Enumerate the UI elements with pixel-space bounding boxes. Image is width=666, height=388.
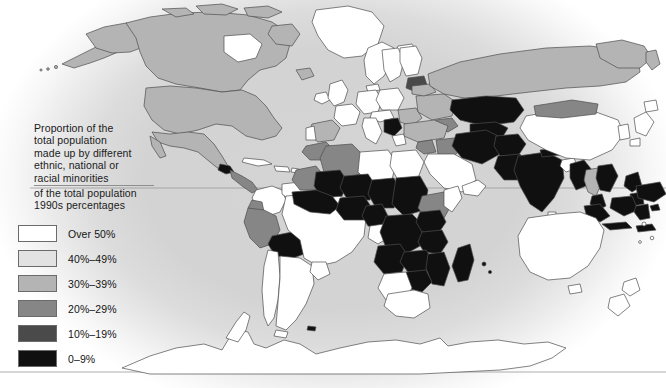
- legend-row-over-50: Over 50%: [18, 221, 148, 246]
- legend-label-0-9: 0–9%: [68, 353, 95, 365]
- swatch-0-9: [18, 350, 57, 367]
- legend-label-10-19: 10%–19%: [68, 328, 117, 340]
- legend-row-40-49: 40%–49%: [18, 246, 148, 271]
- caption-line-1: Proportion of the: [34, 122, 156, 134]
- caption-subnote-2: 1990s percentages: [34, 199, 156, 211]
- region-india: [514, 152, 564, 212]
- region-korea: [618, 124, 630, 140]
- region-japan-honshu: [634, 112, 654, 136]
- region-aleutian-isle-3: [40, 69, 42, 71]
- region-ukraine: [416, 94, 456, 120]
- region-tierra-del-fuego: [274, 330, 288, 338]
- region-madagascar: [452, 244, 474, 282]
- region-kamchatka: [646, 50, 660, 70]
- swatch-30-39: [18, 275, 57, 292]
- region-somalia: [444, 186, 462, 212]
- region-java: [602, 222, 632, 230]
- caption-block: Proportion of the total population made …: [34, 122, 156, 212]
- swatch-over-50: [18, 225, 57, 242]
- region-canada: [126, 12, 290, 92]
- region-new-zealand-north: [622, 278, 640, 296]
- caption-line-5: racial minorities: [34, 172, 156, 184]
- region-aleutian-isle-2: [47, 68, 50, 71]
- region-antarctica: [122, 330, 566, 374]
- region-argentina: [276, 256, 314, 330]
- legend-label-30-39: 30%–39%: [68, 278, 117, 290]
- region-france: [334, 104, 360, 126]
- region-arctic-islands-2: [244, 6, 282, 18]
- caption-divider: [34, 185, 154, 186]
- region-portugal: [306, 126, 316, 140]
- region-cuba: [242, 158, 272, 166]
- region-south-africa: [384, 290, 430, 318]
- region-united-states: [144, 86, 282, 140]
- region-turkey: [404, 120, 448, 142]
- region-egypt: [390, 150, 424, 180]
- legend-label-over-50: Over 50%: [68, 228, 116, 240]
- caption-line-3: made up by different: [34, 147, 156, 159]
- caption-subnote-1: of the total population: [34, 187, 156, 199]
- region-balkans: [384, 118, 402, 136]
- region-vanuatu: [642, 222, 646, 226]
- legend-row-10-19: 10%–19%: [18, 321, 148, 346]
- region-solomon-islands: [650, 204, 660, 211]
- region-ireland: [314, 92, 330, 104]
- region-newfoundland: [296, 68, 314, 80]
- region-japan-kyushu: [630, 138, 640, 146]
- region-aleutian-isle-1: [54, 65, 57, 68]
- region-australia: [518, 212, 604, 280]
- swatch-20-29: [18, 300, 57, 317]
- region-united-kingdom: [328, 80, 348, 106]
- swatch-40-49: [18, 250, 57, 267]
- region-central-america: [230, 170, 258, 193]
- region-kazakhstan: [450, 96, 524, 126]
- region-sulawesi: [634, 204, 650, 220]
- region-japan-hokkaido: [644, 100, 658, 112]
- swatch-10-19: [18, 325, 57, 342]
- region-poland: [376, 88, 404, 110]
- region-finland: [400, 46, 422, 76]
- region-tasmania: [568, 284, 582, 294]
- region-afghanistan: [494, 134, 526, 156]
- region-hispaniola: [274, 166, 290, 172]
- caption-line-2: total population: [34, 134, 156, 146]
- region-fiji: [650, 236, 654, 240]
- legend-label-40-49: 40%–49%: [68, 253, 117, 265]
- region-new-zealand-south: [608, 294, 630, 316]
- region-mauritius: [482, 262, 486, 266]
- region-falklands: [307, 326, 316, 331]
- legend-row-20-29: 20%–29%: [18, 296, 148, 321]
- caption-line-4: ethnic, national or: [34, 159, 156, 171]
- world-map-figure: .c { stroke: #4d4d4d; stroke-width: 0.7;…: [0, 0, 666, 388]
- map-legend: Over 50% 40%–49% 30%–39% 20%–29% 10%–19%…: [18, 221, 148, 371]
- region-reunion: [488, 270, 491, 273]
- legend-row-30-39: 30%–39%: [18, 271, 148, 296]
- region-syria-levant: [416, 140, 436, 154]
- legend-label-20-29: 20%–29%: [68, 303, 117, 315]
- region-new-caledonia: [639, 241, 642, 244]
- legend-row-0-9: 0–9%: [18, 346, 148, 371]
- region-china: [520, 110, 624, 160]
